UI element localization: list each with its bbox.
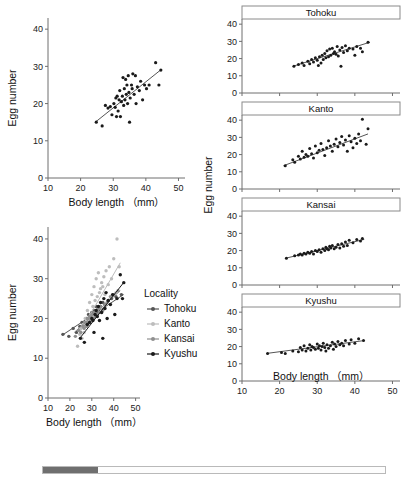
- legend-item-label: Kanto: [164, 318, 191, 329]
- svg-text:40: 40: [227, 115, 237, 125]
- svg-text:30: 30: [227, 37, 237, 47]
- facet-tohoku: Tohoku: [242, 6, 400, 19]
- svg-text:20: 20: [33, 314, 43, 324]
- svg-text:10: 10: [227, 71, 237, 81]
- svg-text:20: 20: [65, 403, 75, 413]
- scatter-plot-by-locality: 0102030401020304050Egg numberBody length…: [0, 215, 200, 440]
- svg-text:30: 30: [312, 386, 322, 396]
- facet-kyushu: Kyushu: [242, 294, 400, 307]
- scatter-plot-pooled-top: 0102030401020304050Egg numberBody length…: [0, 0, 200, 210]
- svg-text:40: 40: [141, 183, 151, 193]
- x-axis-title: Body length （mm）: [69, 196, 165, 208]
- facet-kansai: Kansai: [242, 198, 400, 211]
- svg-text:40: 40: [33, 234, 43, 244]
- svg-text:10: 10: [33, 353, 43, 363]
- facet-grid-localities: Tohoku010203040Kanto010203040Kansai01020…: [200, 0, 418, 400]
- y-axis-title: Egg number: [6, 69, 18, 127]
- legend-item-label: Kansai: [164, 333, 195, 344]
- legend-item-label: Kyushu: [164, 348, 197, 359]
- svg-text:0: 0: [232, 88, 237, 98]
- facet-strip-label: Kanto: [309, 103, 334, 114]
- legend-item-kyushu[interactable]: Kyushu: [147, 348, 197, 359]
- svg-text:20: 20: [227, 342, 237, 352]
- legend: LocalityTohokuKantoKansaiKyushu: [144, 288, 197, 359]
- svg-text:20: 20: [275, 386, 285, 396]
- svg-text:40: 40: [227, 211, 237, 221]
- svg-text:30: 30: [87, 403, 97, 413]
- svg-text:30: 30: [227, 325, 237, 335]
- facet-kanto: Kanto: [242, 102, 400, 115]
- svg-text:30: 30: [227, 133, 237, 143]
- svg-text:20: 20: [227, 150, 237, 160]
- svg-text:50: 50: [173, 183, 183, 193]
- svg-text:40: 40: [227, 19, 237, 29]
- legend-marker-dot: [151, 352, 155, 356]
- facet-strip-label: Kansai: [306, 199, 335, 210]
- x-axis-title: Body length （mm）: [273, 370, 369, 382]
- svg-text:10: 10: [33, 136, 43, 146]
- svg-text:0: 0: [232, 376, 237, 386]
- svg-text:40: 40: [33, 24, 43, 34]
- legend-item-kanto[interactable]: Kanto: [147, 318, 191, 329]
- facet-strip-label: Kyushu: [305, 295, 337, 306]
- svg-text:0: 0: [38, 173, 43, 183]
- progress-bar[interactable]: [42, 466, 386, 474]
- svg-text:30: 30: [33, 274, 43, 284]
- legend-item-kansai[interactable]: Kansai: [147, 333, 195, 344]
- svg-text:10: 10: [227, 263, 237, 273]
- svg-text:30: 30: [33, 62, 43, 72]
- svg-text:20: 20: [227, 54, 237, 64]
- figure-container: 0102030401020304050Egg numberBody length…: [0, 0, 418, 477]
- svg-text:10: 10: [227, 359, 237, 369]
- progress-bar-fill: [43, 467, 98, 473]
- facet-strip-label: Tohoku: [306, 7, 337, 18]
- svg-text:10: 10: [43, 183, 53, 193]
- legend-item-label: Tohoku: [164, 303, 196, 314]
- svg-text:0: 0: [38, 393, 43, 403]
- svg-text:10: 10: [227, 167, 237, 177]
- svg-text:20: 20: [76, 183, 86, 193]
- legend-marker-dot: [151, 322, 155, 326]
- svg-text:30: 30: [108, 183, 118, 193]
- svg-text:50: 50: [131, 403, 141, 413]
- svg-text:40: 40: [109, 403, 119, 413]
- y-axis-title: Egg number: [202, 156, 214, 214]
- svg-text:0: 0: [232, 184, 237, 194]
- svg-text:40: 40: [227, 307, 237, 317]
- y-axis-title: Egg number: [6, 283, 18, 341]
- svg-text:30: 30: [227, 229, 237, 239]
- svg-text:20: 20: [227, 246, 237, 256]
- svg-text:20: 20: [33, 99, 43, 109]
- legend-marker-dot: [151, 337, 155, 341]
- svg-text:50: 50: [387, 386, 397, 396]
- svg-text:10: 10: [237, 386, 247, 396]
- x-axis-title: Body length （mm）: [46, 416, 142, 428]
- legend-title: Locality: [144, 288, 178, 299]
- svg-text:10: 10: [43, 403, 53, 413]
- legend-marker-dot: [151, 307, 155, 311]
- panel-pooled-by-locality: 0102030401020304050Egg numberBody length…: [0, 215, 200, 440]
- svg-text:40: 40: [350, 386, 360, 396]
- svg-text:0: 0: [232, 280, 237, 290]
- legend-item-tohoku[interactable]: Tohoku: [147, 303, 196, 314]
- panel-pooled-top: 0102030401020304050Egg numberBody length…: [0, 0, 200, 210]
- panel-facet-column: Tohoku010203040Kanto010203040Kansai01020…: [200, 0, 418, 400]
